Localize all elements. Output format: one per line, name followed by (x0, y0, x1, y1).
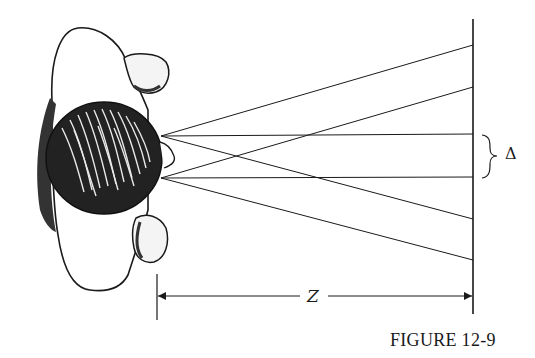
figure-caption: FIGURE 12-9 (390, 330, 496, 350)
sight-rays (161, 45, 473, 260)
hair (46, 102, 162, 214)
ray-upper-1 (161, 45, 473, 136)
delta-brace (482, 135, 497, 178)
head-illustration (37, 28, 174, 291)
ray-upper-2 (161, 134, 473, 136)
z-distance-label: Z (305, 287, 321, 305)
z-right-arrowhead (464, 292, 472, 300)
ray-lower-1 (161, 87, 473, 178)
ray-lower-2 (161, 177, 473, 178)
stereo-viewing-diagram (0, 0, 535, 358)
delta-label: Δ (505, 145, 517, 163)
ray-lower-3 (161, 178, 473, 260)
z-left-arrowhead (158, 292, 166, 300)
